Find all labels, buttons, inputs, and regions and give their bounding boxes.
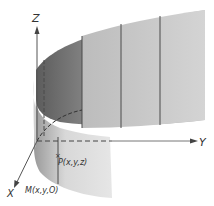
point-p-label: P(x,y,z) — [58, 158, 87, 167]
x-axis-arrow-icon — [14, 180, 20, 188]
z-axis-label: Z — [31, 12, 40, 25]
point-m-label: M(x,y,O) — [25, 186, 58, 195]
x-axis-label: X — [6, 188, 15, 199]
surface-right-panel — [82, 10, 205, 128]
y-axis-label: Y — [199, 136, 207, 149]
parabolic-cylinder-diagram: Z Y X × P(x,y,z) M(x,y,O) — [0, 0, 214, 206]
y-axis-arrow-icon — [190, 139, 198, 144]
x-axis — [16, 141, 37, 184]
z-axis-arrow-icon — [35, 26, 40, 34]
surface-left-edge — [33, 80, 36, 148]
